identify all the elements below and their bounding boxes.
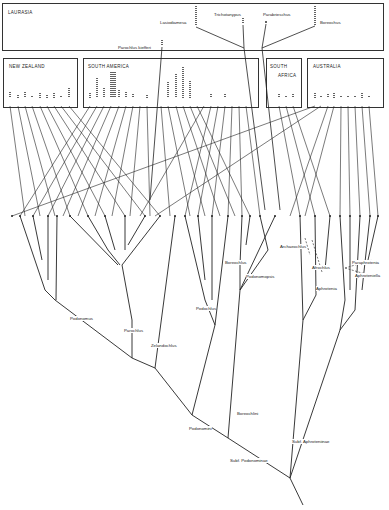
label-subf-podonominae: Subf. Podonominae	[230, 458, 268, 463]
label-parochlus: Parochlus	[124, 328, 143, 333]
label-boreochlus: Boreochlus	[225, 260, 247, 265]
laurasia-dots	[162, 6, 315, 46]
label-boreochlini: Boreochlini	[237, 411, 258, 416]
occurrence-dots	[10, 67, 369, 98]
label-subf-aphroteniinae: Subf. Aphroteniinae	[292, 439, 330, 444]
label-podonomini: Podonomini	[189, 426, 212, 431]
label-aphrotenia: Aphrotenia	[316, 286, 337, 291]
tip-nodes	[11, 215, 379, 217]
label-aphroteniella: Aphroteniella	[355, 273, 380, 278]
label-podonomus: Podonomus	[70, 316, 93, 321]
tree-branches	[20, 216, 378, 505]
distribution-lines	[10, 106, 378, 216]
laurasia-connectors	[150, 24, 315, 210]
label-afrochlus: Afrochlus	[312, 265, 330, 270]
label-archaeochlus: Archaeochlus	[280, 244, 306, 249]
phylogeny-tree	[0, 0, 389, 510]
label-paraphrotenia: Paraphrotenia	[352, 260, 379, 265]
label-zelandochlus: Zelandochlus	[151, 343, 177, 348]
label-podonomopsis: Podonomopsis	[246, 274, 274, 279]
label-podochlus: Podochlus	[196, 306, 216, 311]
